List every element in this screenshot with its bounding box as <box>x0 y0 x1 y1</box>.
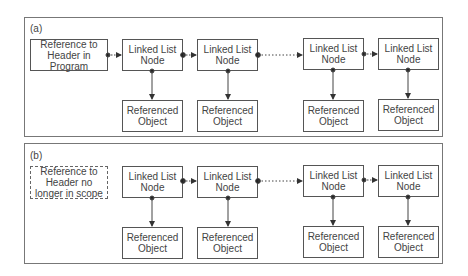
connector-arrows <box>0 0 468 276</box>
